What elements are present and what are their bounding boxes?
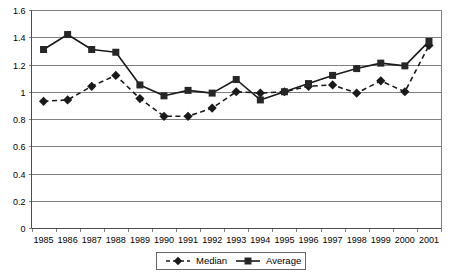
x-tick-label: 1993	[226, 235, 246, 245]
y-tick-label: 0.8	[13, 115, 26, 125]
data-point-marker-average	[160, 92, 167, 99]
x-tick-label: 2000	[395, 235, 415, 245]
x-tick-label: 1991	[178, 235, 198, 245]
data-point-marker-average	[88, 46, 95, 53]
data-point-marker-average	[257, 96, 264, 103]
data-point-marker-average	[136, 81, 143, 88]
x-tick-label: 2001	[419, 235, 439, 245]
x-tick-label: 1985	[34, 235, 54, 245]
data-point-marker-average	[425, 38, 432, 45]
y-tick-label: 1.6	[13, 6, 26, 16]
x-tick-label: 1994	[250, 235, 270, 245]
x-tick-label: 1998	[347, 235, 367, 245]
data-point-marker-average	[377, 60, 384, 67]
data-point-marker-average	[112, 49, 119, 56]
chart-legend: MedianAverage	[157, 253, 306, 270]
x-tick-label: 1996	[298, 235, 318, 245]
y-tick-label: 1	[20, 88, 25, 98]
x-tick-label: 1989	[130, 235, 150, 245]
x-tick-label: 1990	[154, 235, 174, 245]
y-tick-label: 0.6	[13, 142, 26, 152]
data-point-marker-average	[233, 76, 240, 83]
data-point-marker-average	[40, 46, 47, 53]
line-chart: 00.20.40.60.811.21.41.6 1985198619871988…	[0, 0, 461, 277]
y-tick-label: 1.4	[13, 33, 26, 43]
y-tick-label: 0.2	[13, 197, 26, 207]
y-tick-label: 0	[20, 224, 25, 234]
data-point-marker-average	[185, 87, 192, 94]
x-tick-label: 1997	[323, 235, 343, 245]
data-point-marker-average	[401, 62, 408, 69]
x-tick-label: 1987	[82, 235, 102, 245]
data-point-marker-average	[353, 65, 360, 72]
y-tick-label: 1.2	[13, 61, 26, 71]
data-point-marker-average	[329, 72, 336, 79]
legend-marker-square-icon	[245, 258, 252, 265]
x-tick-label: 1986	[58, 235, 78, 245]
data-point-marker-average	[209, 90, 216, 97]
chart-canvas: 00.20.40.60.811.21.41.6 1985198619871988…	[0, 0, 461, 277]
x-tick-label: 1988	[106, 235, 126, 245]
data-point-marker-average	[281, 88, 288, 95]
legend-label-median: Median	[196, 255, 227, 266]
legend-label-average: Average	[266, 255, 301, 266]
data-point-marker-average	[64, 31, 71, 38]
x-tick-label: 1999	[371, 235, 391, 245]
data-point-marker-average	[305, 80, 312, 87]
x-tick-label: 1992	[202, 235, 222, 245]
y-tick-label: 0.4	[13, 170, 26, 180]
x-tick-label: 1995	[274, 235, 294, 245]
